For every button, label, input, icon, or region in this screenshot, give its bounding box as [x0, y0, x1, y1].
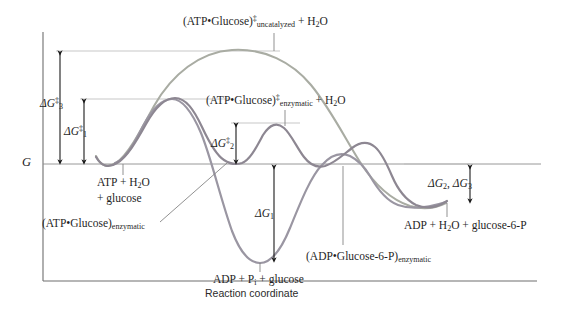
x-axis-label: Reaction coordinate	[205, 287, 298, 299]
leader-lines	[123, 33, 447, 272]
label-reactants: ATP + H2O + glucose	[97, 175, 150, 205]
ts-enz-base: (ATP•Glucose)	[206, 94, 276, 106]
leader-es-complex	[160, 163, 227, 222]
label-dG1: ΔG1	[255, 206, 274, 222]
ts-uncat-tail-end: O	[320, 15, 328, 27]
adp-pi-a: ADP + P	[213, 273, 254, 285]
ts-uncat-tail: + H	[295, 15, 316, 27]
ep-complex-sub: enzymatic	[398, 255, 431, 264]
energy-diagram-svg	[0, 0, 565, 310]
label-es-complex: (ATP•Glucose)enzymatic	[42, 216, 145, 232]
ep-complex-base: (ADP•Glucose-6-P)	[306, 250, 398, 262]
label-dG2-dG3: ΔG2, ΔG3	[428, 176, 472, 192]
label-ts-uncatalyzed: (ATP•Glucose)‡uncatalyzed + H2O	[183, 14, 328, 30]
products-b: O + glucose-6-P	[451, 219, 526, 231]
ts-uncat-base: (ATP•Glucose)	[183, 15, 253, 27]
products-a: ADP + H	[404, 219, 447, 231]
energy-diagram-figure: G Reaction coordinate (ATP•Glucose)‡unca…	[0, 0, 565, 310]
dG2act-sub: 2	[230, 142, 234, 151]
dG1-sub: 1	[270, 212, 274, 221]
label-dG2-activation: ΔG‡2	[211, 136, 234, 152]
es-complex-base: (ATP•Glucose)	[42, 217, 112, 229]
reactants-line-1: ATP + H2O	[97, 175, 150, 191]
dG1-symbol: ΔG	[255, 207, 270, 219]
es-complex-sub: enzymatic	[112, 222, 145, 231]
dG2act-symbol: ΔG	[211, 137, 226, 149]
label-ts-enzymatic: (ATP•Glucose)‡enzymatic + H2O	[206, 93, 346, 109]
dG3b-symbol: ΔG	[453, 177, 468, 189]
dG3-symbol: ΔG	[40, 97, 55, 109]
reactants-h2o-end: O	[142, 176, 150, 188]
ts-enz-sub: enzymatic	[280, 99, 313, 108]
dG1act-sub: 1	[83, 130, 87, 139]
label-products: ADP + H2O + glucose-6-P	[404, 218, 527, 234]
reactants-line-2: + glucose	[97, 191, 150, 205]
dG1act-symbol: ΔG	[64, 125, 79, 137]
ts-enz-tail: + H	[313, 94, 334, 106]
dG3b-sub: 3	[468, 182, 472, 191]
reactants-atp-h2o: ATP + H	[97, 176, 138, 188]
label-dG3-activation: ΔG‡3	[40, 96, 63, 112]
curve-enzymatic-deep-well	[115, 99, 446, 263]
label-dG1-activation: ΔG‡1	[64, 124, 87, 140]
dG3-sub: 3	[59, 102, 63, 111]
adp-pi-b: + glucose	[256, 273, 303, 285]
ts-enz-tail-end: O	[337, 94, 345, 106]
label-adp-pi-glucose: ADP + Pi + glucose	[213, 272, 304, 288]
y-axis-label: G	[22, 155, 31, 170]
dG2-symbol: ΔG	[428, 177, 443, 189]
label-ep-complex: (ADP•Glucose-6-P)enzymatic	[306, 249, 431, 265]
axes	[43, 32, 541, 281]
ts-uncat-sub: uncatalyzed	[257, 20, 295, 29]
